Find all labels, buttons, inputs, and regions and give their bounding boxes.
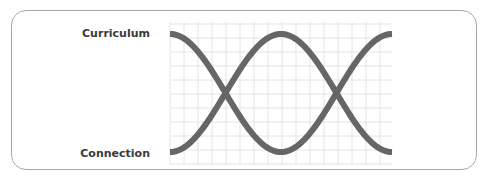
oscillation-diagram bbox=[0, 0, 487, 180]
grid bbox=[170, 22, 392, 165]
